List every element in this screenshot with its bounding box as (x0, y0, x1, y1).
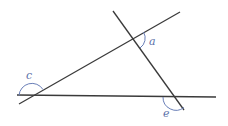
angle-e-label: e (163, 107, 170, 120)
line-descending (113, 11, 184, 110)
angle-diagram: a c e (0, 0, 228, 126)
angle-c-arc (19, 83, 43, 95)
diagram-svg: a c e (0, 0, 228, 126)
line-ascending (19, 12, 180, 104)
angle-a-label: a (149, 35, 156, 48)
line-horizontal (17, 95, 216, 97)
angle-c-label: c (26, 69, 32, 82)
